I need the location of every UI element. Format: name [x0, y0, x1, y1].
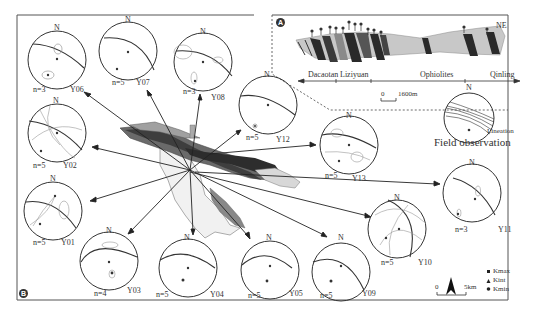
- stereonet-y07: [99, 22, 157, 80]
- section-scale-zero: 0: [381, 91, 385, 98]
- panel-a-badge: A: [276, 18, 285, 27]
- site-label: Y07: [136, 79, 150, 87]
- stereonet-y03: [80, 232, 138, 290]
- site-label: Y10: [418, 259, 432, 267]
- unit-label-liziyuan: Liziyuan: [340, 71, 368, 79]
- sample-count: n=5: [112, 79, 125, 87]
- sample-count: n=5: [248, 292, 261, 300]
- unit-label-dacaotan: Dacaotan: [308, 71, 338, 79]
- site-label: Y13: [352, 175, 366, 183]
- stereonet-y12: [239, 76, 297, 134]
- north-label: N: [200, 28, 206, 36]
- site-label: Y03: [127, 287, 141, 295]
- sample-count: n=4: [94, 290, 107, 298]
- panel-b-badge: B: [19, 289, 28, 298]
- map-scale-label: 5km: [464, 284, 476, 291]
- north-label: N: [125, 16, 131, 24]
- sample-count: n=3: [33, 86, 46, 94]
- unit-label-qinling: Qinling: [490, 71, 514, 79]
- site-label: Y01: [61, 239, 75, 247]
- stereonet-y08: [174, 33, 232, 91]
- section-scale-label: 1600m: [398, 91, 417, 98]
- sample-count: n=3: [183, 88, 196, 96]
- sample-count: n=5: [320, 292, 333, 300]
- lineation-legend: Lineation: [487, 128, 514, 135]
- site-label: Y04: [210, 291, 224, 299]
- north-label: N: [346, 112, 352, 120]
- north-label: N: [394, 194, 400, 202]
- sample-count: n=5: [246, 134, 259, 142]
- site-label: Y05: [289, 290, 303, 298]
- stereonet-y04: [159, 239, 217, 297]
- site-label: Y02: [63, 162, 77, 170]
- stereonet-y10: [368, 200, 426, 258]
- legend-kint: Kint: [493, 277, 505, 284]
- site-label: Y09: [362, 290, 376, 298]
- sample-count: n=5: [33, 239, 46, 247]
- legend-kmax: Kmax: [493, 268, 510, 275]
- sample-count: n=5: [325, 172, 338, 180]
- north-label: N: [54, 24, 60, 32]
- sample-count: n=5: [156, 291, 169, 299]
- site-label: Y11: [498, 226, 511, 234]
- stereonet-y13: [320, 116, 378, 174]
- north-label: N: [184, 234, 190, 242]
- sample-count: n=3: [455, 226, 468, 234]
- north-label: N: [106, 227, 112, 235]
- stereonet-y01: [24, 182, 82, 240]
- unit-label-ophiolites: Ophiolites: [420, 71, 453, 79]
- site-label: Y06: [70, 86, 84, 94]
- site-label: Y08: [211, 94, 225, 102]
- legend-symbols: [487, 270, 491, 291]
- field-stereonet-north: N: [466, 84, 472, 92]
- north-arrow-icon: [446, 277, 456, 295]
- stereonet-y06: [28, 31, 86, 89]
- cross-section: [296, 26, 505, 62]
- sample-count: n=5: [33, 162, 46, 170]
- site-label: Y12: [276, 136, 290, 144]
- north-label: N: [469, 159, 475, 167]
- map-scale-zero: 0: [435, 284, 439, 291]
- field-observation-title: Field observation: [434, 137, 511, 148]
- stereonet-y02: [28, 104, 86, 162]
- map-scale-bar: [437, 292, 466, 295]
- north-label: N: [338, 234, 344, 242]
- stereonet-y11: [443, 164, 501, 222]
- direction-label: NE: [496, 22, 507, 30]
- north-label: N: [264, 71, 270, 79]
- north-label: N: [266, 234, 272, 242]
- figure-canvas: [0, 0, 536, 316]
- legend-kmin: Kmin: [493, 286, 509, 293]
- north-label: N: [53, 97, 59, 105]
- sample-count: n=5: [381, 259, 394, 267]
- north-label: N: [50, 175, 56, 183]
